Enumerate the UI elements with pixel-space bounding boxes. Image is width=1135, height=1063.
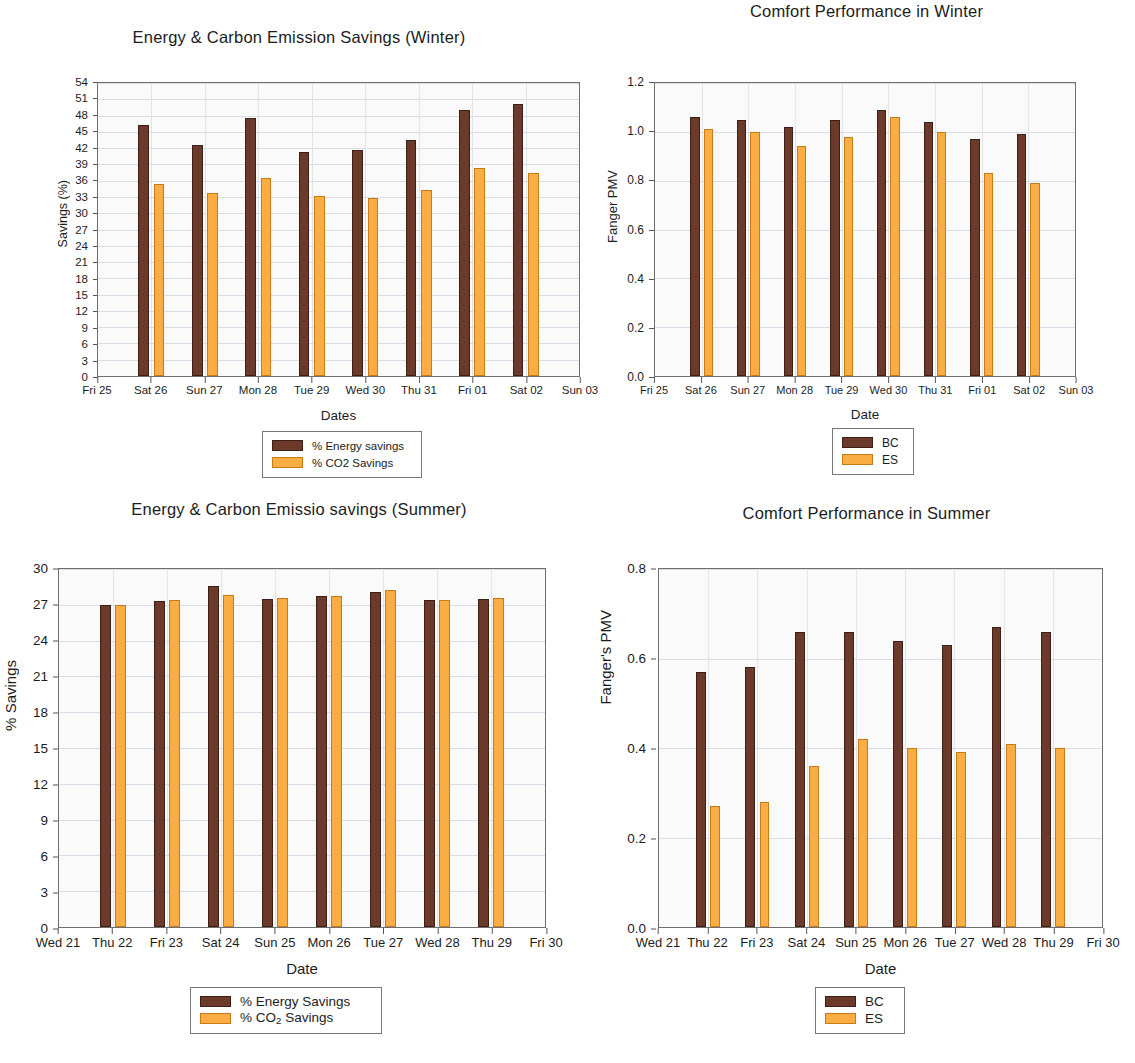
legend-item: % CO2 Savings — [200, 1010, 370, 1027]
x-axis-tick: Wed 21 — [636, 935, 681, 950]
bar-co2-savings-thu-29 — [493, 598, 504, 927]
y-axis-tick: 0.0 — [627, 370, 649, 384]
legend: BCES — [815, 987, 905, 1034]
x-axis-tick: Fri 23 — [740, 935, 773, 950]
legend: % Energy Savings% CO2 Savings — [190, 987, 382, 1034]
gridline — [59, 784, 545, 785]
legend-item: BC — [825, 993, 893, 1010]
gridline — [98, 278, 579, 279]
x-axis-tick: Mon 28 — [776, 384, 813, 396]
legend-label: % Energy Savings — [240, 994, 350, 1009]
x-axis-tick: Sun 03 — [1059, 384, 1094, 396]
gridline — [659, 838, 1102, 839]
x-axis-tick: Fri 25 — [82, 384, 111, 396]
gridline — [708, 569, 709, 927]
y-axis-tick: 1.2 — [627, 75, 649, 89]
y-axis-tick: 0.8 — [627, 561, 651, 576]
bar-bc-thu-31 — [924, 122, 933, 376]
gridline — [659, 659, 1102, 660]
bar-co2-savings-sun-25 — [277, 598, 288, 927]
bar-es-thu-31 — [937, 132, 946, 376]
gridline — [329, 569, 330, 927]
y-axis-tick: 18 — [33, 705, 53, 720]
x-axis-tick: Sat 26 — [134, 384, 167, 396]
gridline — [98, 99, 579, 100]
legend-item: ES — [825, 1010, 893, 1027]
legend-label: % CO2 Savings — [312, 457, 393, 469]
legend: BCES — [832, 428, 914, 475]
gridline — [59, 569, 545, 570]
x-axis-tick: Fri 23 — [150, 935, 183, 950]
bar-co2-savings-fri-23 — [169, 600, 180, 927]
legend-swatch-es — [272, 457, 303, 468]
x-axis-label: Date — [658, 960, 1103, 977]
y-axis-tick: 33 — [75, 191, 93, 203]
x-axis-tick: Wed 21 — [36, 935, 81, 950]
y-axis-ticks: 036912151821242730 — [18, 568, 53, 928]
x-axis-tick: Thu 22 — [687, 935, 727, 950]
x-axis-tick: Thu 31 — [918, 384, 952, 396]
legend-swatch-bc — [842, 437, 873, 448]
y-axis-tick: 0.2 — [627, 831, 651, 846]
gridline — [655, 132, 1075, 133]
bar-bc-sun-25 — [844, 632, 854, 927]
gridline — [655, 278, 1075, 279]
x-axis-label: Date — [654, 407, 1076, 422]
bar-energy-savings-sat-26 — [138, 125, 149, 376]
gridline — [98, 311, 579, 312]
bar-energy-savings-wed-28 — [424, 600, 435, 927]
gridline — [98, 116, 579, 117]
gridline — [655, 181, 1075, 182]
page-title: Energy & Carbon Emission Savings (Winter… — [0, 28, 598, 47]
bar-energy-savings-sat-24 — [208, 586, 219, 927]
gridline — [856, 569, 857, 927]
bar-co2-savings-mon-26 — [331, 596, 342, 927]
gridline — [655, 327, 1075, 328]
gridline — [365, 83, 366, 376]
bar-energy-savings-sun-25 — [262, 599, 273, 927]
bar-co2-savings-sat-26 — [154, 184, 165, 376]
legend-label: % Energy savings — [312, 440, 404, 452]
bar-es-sun-27 — [750, 132, 759, 376]
plot-area — [58, 568, 546, 928]
bar-bc-sat-24 — [795, 632, 805, 927]
x-axis-ticks: Wed 21Thu 22Fri 23Sat 24Sun 25Mon 26Tue … — [58, 928, 546, 950]
legend-item: ES — [842, 451, 902, 468]
x-axis-tick: Tue 27 — [935, 935, 975, 950]
gridline — [98, 343, 579, 344]
gridline — [98, 132, 579, 133]
gridline — [312, 83, 313, 376]
chart-panel-summer-energy-savings: Energy & Carbon Emissio savings (Summer)… — [0, 490, 600, 1063]
bar-es-thu-22 — [710, 806, 720, 927]
gridline — [795, 83, 796, 376]
y-axis-tick: 48 — [75, 109, 93, 121]
bar-bc-sat-02 — [1017, 134, 1026, 376]
x-axis-label: Date — [58, 960, 546, 977]
y-axis-tick: 9 — [40, 813, 53, 828]
bar-energy-savings-sun-27 — [192, 145, 203, 376]
legend-swatch-bc — [200, 996, 231, 1007]
gridline — [275, 569, 276, 927]
gridline — [205, 83, 206, 376]
bar-es-mon-28 — [797, 146, 806, 376]
bar-bc-thu-22 — [696, 672, 706, 927]
chart-panel-winter-comfort-performance: Comfort Performance in Winter Fanger PMV… — [600, 0, 1135, 490]
legend-label: ES — [865, 1011, 883, 1026]
y-axis-tick: 0.4 — [627, 272, 649, 286]
gridline — [98, 360, 579, 361]
legend-swatch-es — [842, 454, 873, 465]
gridline — [151, 83, 152, 376]
y-axis-tick: 42 — [75, 142, 93, 154]
bar-es-fri-01 — [984, 173, 993, 376]
legend-label: BC — [882, 436, 899, 450]
gridline — [419, 83, 420, 376]
bar-co2-savings-tue-29 — [314, 196, 325, 376]
gridline — [1004, 569, 1005, 927]
gridline — [905, 569, 906, 927]
bar-bc-thu-29 — [1041, 632, 1051, 927]
y-axis-tick: 51 — [75, 92, 93, 104]
page-title: Comfort Performance in Winter — [600, 2, 1133, 21]
gridline — [98, 148, 579, 149]
gridline — [59, 712, 545, 713]
legend-swatch-es — [825, 1013, 856, 1024]
